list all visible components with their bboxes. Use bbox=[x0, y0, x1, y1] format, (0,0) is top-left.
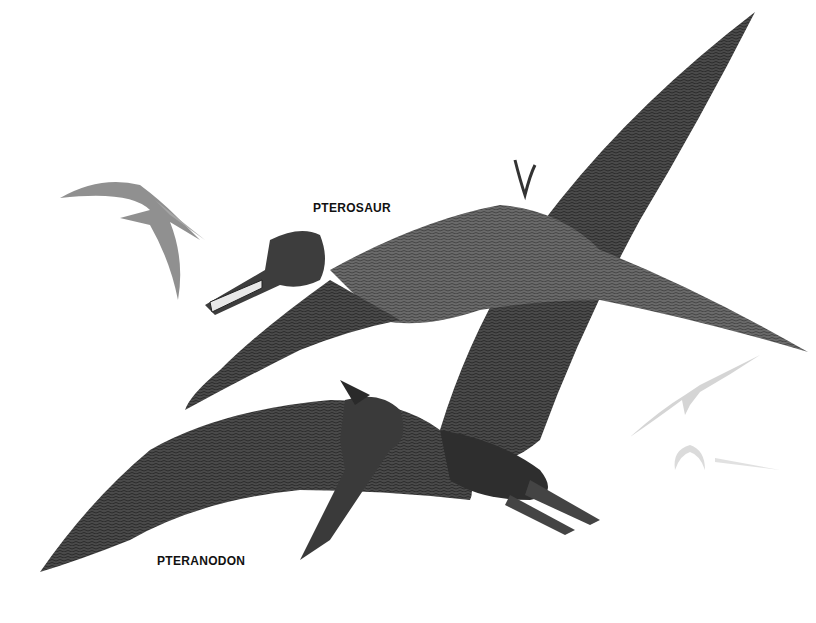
faint-pterosaurs-right bbox=[630, 355, 780, 470]
pterosaur-label: PTEROSAUR bbox=[313, 201, 391, 215]
distant-pterosaur-left bbox=[60, 182, 205, 300]
pteranodon-label: PTERANODON bbox=[157, 554, 245, 568]
drawing-canvas bbox=[0, 0, 816, 623]
pterosaur-illustration: PTEROSAUR PTERANODON bbox=[0, 0, 816, 623]
